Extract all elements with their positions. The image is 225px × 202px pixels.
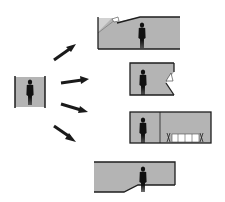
arrow-3-icon: [61, 104, 88, 113]
option-4-room: [94, 162, 175, 192]
arrow-4-icon: [54, 126, 76, 142]
option-2-room: [130, 63, 174, 95]
dining-table-icon: [167, 133, 203, 142]
arrow-1-icon: [54, 44, 76, 60]
option-1-room: [98, 17, 180, 49]
arrow-2-icon: [61, 76, 89, 84]
option-3-room: [130, 112, 211, 143]
arrows: [54, 44, 89, 142]
diagram-canvas: [0, 0, 225, 202]
source-room: [15, 76, 45, 108]
